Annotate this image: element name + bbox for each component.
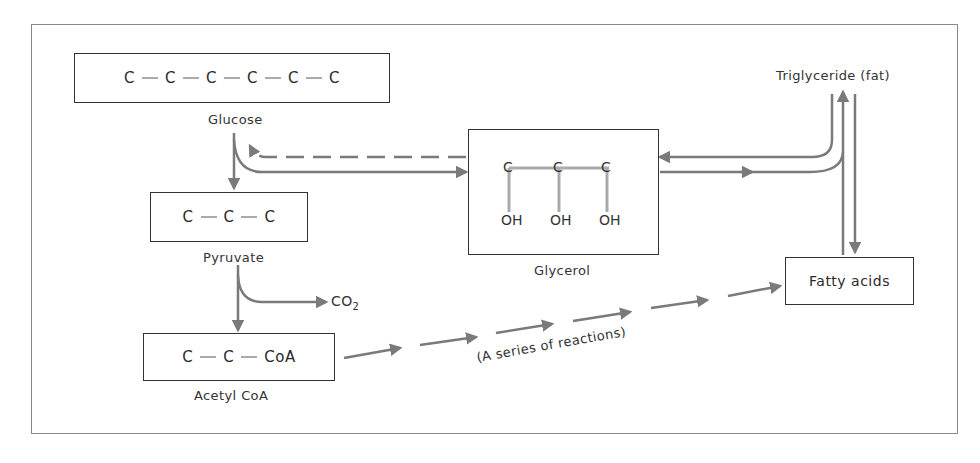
arrow-glycerol-to-triglyceride xyxy=(660,152,843,172)
reaction-segment-5 xyxy=(651,300,707,308)
pyruvate-box: C C C xyxy=(150,192,308,242)
reaction-segment-2 xyxy=(420,337,476,345)
bond xyxy=(200,356,216,358)
carbon-atom: C xyxy=(221,348,236,366)
acetylcoa-chain: C C CoA xyxy=(144,334,334,380)
bond xyxy=(142,77,158,79)
carbon-atom: C xyxy=(122,69,137,87)
bond xyxy=(224,77,240,79)
carbon-atom: C xyxy=(222,208,237,226)
glucose-carbon-chain: C C C C C C xyxy=(75,54,389,102)
carbon-atom: C xyxy=(262,208,277,226)
glycerol-carbon-1: C xyxy=(503,159,513,175)
arrow-glycerol-to-glucose-dashed xyxy=(250,146,466,157)
pyruvate-carbon-chain: C C C xyxy=(151,193,307,241)
reaction-segment-1 xyxy=(344,348,400,358)
carbon-atom: C xyxy=(181,208,196,226)
fattyacids-label: Fatty acids xyxy=(809,273,890,289)
glycerol-hydroxyl-1: OH xyxy=(501,212,523,228)
carbon-atom: C xyxy=(245,69,260,87)
co2-subscript: 2 xyxy=(353,301,360,312)
arrow-triglyceride-to-glycerol xyxy=(660,94,832,157)
reaction-segment-6 xyxy=(728,286,780,296)
glycerol-label: Glycerol xyxy=(534,263,590,278)
coa-group: CoA xyxy=(262,348,297,366)
glucose-box: C C C C C C xyxy=(74,53,390,103)
arrow-pyruvate-to-co2 xyxy=(238,275,326,302)
glycerol-carbon-2: C xyxy=(553,159,563,175)
co2-text: CO xyxy=(331,293,353,309)
carbon-atom: C xyxy=(327,69,342,87)
triglyceride-label: Triglyceride (fat) xyxy=(776,68,890,83)
reaction-segment-3 xyxy=(496,324,552,333)
glycerol-hydroxyl-3: OH xyxy=(599,212,621,228)
fattyacids-box: Fatty acids xyxy=(785,257,914,305)
carbon-atom: C xyxy=(180,348,195,366)
carbon-atom: C xyxy=(286,69,301,87)
fattyacids-text-wrap: Fatty acids xyxy=(786,258,913,304)
bond xyxy=(241,356,257,358)
acetylcoa-label: Acetyl CoA xyxy=(194,388,268,403)
bond xyxy=(201,216,217,218)
bond xyxy=(183,77,199,79)
carbon-atom: C xyxy=(163,69,178,87)
acetylcoa-box: C C CoA xyxy=(143,333,335,381)
bond xyxy=(241,216,257,218)
bond xyxy=(306,77,322,79)
bond xyxy=(265,77,281,79)
glycerol-hydroxyl-2: OH xyxy=(550,212,572,228)
glucose-label: Glucose xyxy=(208,112,263,127)
pyruvate-label: Pyruvate xyxy=(203,250,264,265)
glycerol-box: C C C OH OH OH xyxy=(468,129,659,255)
reaction-segment-4 xyxy=(573,312,630,321)
carbon-atom: C xyxy=(204,69,219,87)
glycerol-bonds xyxy=(469,130,660,256)
co2-label: CO2 xyxy=(331,293,359,312)
glycerol-carbon-3: C xyxy=(601,159,611,175)
